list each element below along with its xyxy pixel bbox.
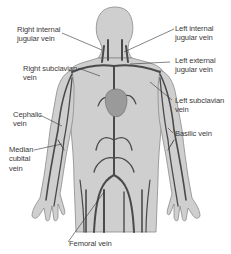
label-left-subclavian-vein: Left subclavian vein bbox=[175, 96, 224, 115]
label-left-external-jugular-vein: Left external jugular vein bbox=[175, 56, 216, 75]
label-cephalic-vein: Cephalic vein bbox=[13, 110, 42, 129]
vein-diagram: Right internal jugular vein Right subcla… bbox=[0, 0, 231, 254]
label-left-internal-jugular-vein: Left internal jugular vein bbox=[175, 24, 213, 43]
label-right-subclavian-vein: Right subclavian vein bbox=[23, 64, 77, 83]
label-right-internal-jugular-vein: Right internal jugular vein bbox=[17, 25, 60, 44]
label-median-cubital-vein: Median cubital vein bbox=[9, 145, 33, 173]
label-basilic-vein: Basilic vein bbox=[175, 129, 212, 138]
label-femoral-vein: Femoral vein bbox=[69, 239, 112, 248]
